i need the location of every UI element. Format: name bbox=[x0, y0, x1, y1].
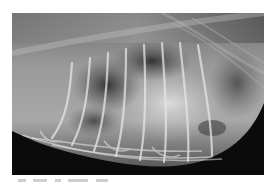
caption-glyph bbox=[33, 179, 47, 182]
caption-glyph bbox=[96, 179, 108, 182]
figure-caption-fragment bbox=[18, 179, 128, 184]
radiograph-graphic bbox=[12, 13, 264, 175]
caption-glyph bbox=[55, 179, 61, 182]
radiograph-image bbox=[12, 13, 264, 175]
caption-glyph bbox=[68, 179, 88, 182]
caption-glyph bbox=[18, 179, 26, 182]
